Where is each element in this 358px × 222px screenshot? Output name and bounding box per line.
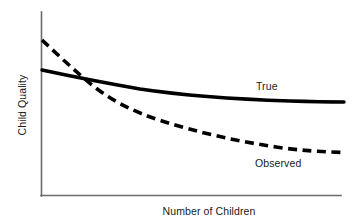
series-label-true: True [256,80,278,92]
y-axis-title: Child Quality [16,74,28,135]
series-line-true [42,70,344,102]
x-axis-title: Number of Children [163,205,256,217]
chart-canvas: True Observed Child Quality Number of Ch… [0,0,358,222]
series-label-observed: Observed [255,157,301,169]
chart-figure: True Observed Child Quality Number of Ch… [0,0,358,222]
